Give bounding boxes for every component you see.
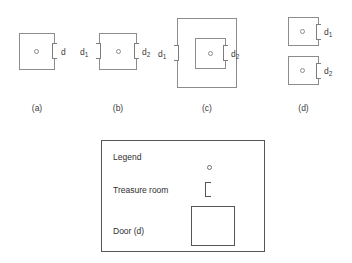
treasure-room-icon-bottom xyxy=(300,68,305,73)
door-label-sub: 2 xyxy=(329,70,333,77)
room-square-icon xyxy=(191,206,235,246)
door-icon xyxy=(52,43,57,59)
door-label-d1: d1 xyxy=(324,28,332,37)
treasure-room-icon xyxy=(34,49,39,54)
door-label-d2: d2 xyxy=(231,50,239,59)
panel-caption-d: (d) xyxy=(288,104,319,113)
door-bracket-icon xyxy=(205,182,211,197)
panel-caption-a: (a) xyxy=(19,104,55,113)
door-icon-inner-right xyxy=(223,45,228,61)
door-label-d1: d1 xyxy=(158,50,166,59)
legend-box: Legend Treasure room Door (d) xyxy=(101,140,265,252)
door-label-sub: 2 xyxy=(236,53,240,60)
treasure-circle-icon xyxy=(207,165,212,170)
treasure-room-icon xyxy=(208,51,213,56)
door-icon-bottom xyxy=(316,63,321,79)
legend-row-label-1: Treasure room xyxy=(113,186,168,195)
door-label-d2: d2 xyxy=(324,67,332,76)
treasure-room-icon-top xyxy=(300,29,305,34)
door-label-sub: 2 xyxy=(147,51,151,58)
door-label-sub: 1 xyxy=(329,31,333,38)
door-icon-top xyxy=(316,24,321,40)
legend-row-label-2: Door (d) xyxy=(113,227,144,236)
door-label-sub: 1 xyxy=(85,51,89,58)
treasure-room-icon xyxy=(116,49,121,54)
figure-canvas: d (a) d1 d2 (b) d1 d2 (c) xyxy=(0,0,352,263)
panel-caption-c: (c) xyxy=(177,104,237,113)
panel-caption-b: (b) xyxy=(99,104,137,113)
door-label-sub: 1 xyxy=(163,53,167,60)
door-icon-right xyxy=(134,43,139,59)
door-label-text: d xyxy=(61,47,66,57)
door-label-d: d xyxy=(61,48,66,57)
door-label-d2: d2 xyxy=(142,48,150,57)
door-icon-left xyxy=(96,43,101,59)
legend-row-label-0: Legend xyxy=(113,153,141,162)
door-label-d1: d1 xyxy=(80,48,88,57)
door-icon-outer-left xyxy=(174,45,179,61)
